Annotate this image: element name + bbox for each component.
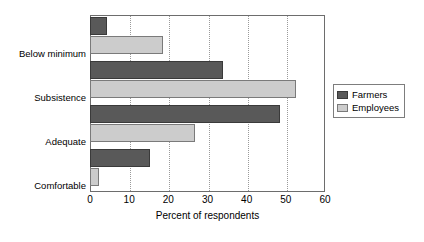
x-tick-20: 20 <box>163 194 174 206</box>
x-tick-10: 10 <box>124 194 135 206</box>
category-label-comfortable: Comfortable <box>0 180 86 191</box>
bar-farmers-comfortable <box>90 149 150 167</box>
x-tick-50: 50 <box>280 194 291 206</box>
legend-item-farmers: Farmers <box>337 88 399 101</box>
bar-farmers-adequate <box>90 105 280 123</box>
bar-employees-below-minimum <box>90 36 163 54</box>
legend-label-farmers: Farmers <box>352 89 387 100</box>
legend-label-employees: Employees <box>352 102 399 113</box>
legend-swatch-employees-icon <box>337 104 348 112</box>
bar-employees-adequate <box>90 124 195 142</box>
x-tick-30: 30 <box>202 194 213 206</box>
bar-farmers-below-minimum <box>90 17 107 35</box>
bar-employees-comfortable <box>90 168 99 186</box>
x-tick-60: 60 <box>319 194 330 206</box>
x-axis-title: Percent of respondents <box>90 210 325 222</box>
x-axis-tick-labels: 0 10 20 30 40 50 60 <box>90 194 325 208</box>
category-label-subsistence: Subsistence <box>0 92 86 103</box>
bar-chart: Below minimum Subsistence Adequate Comfo… <box>0 0 424 242</box>
bar-farmers-subsistence <box>90 61 223 79</box>
bar-group-adequate <box>90 105 325 149</box>
category-label-below-minimum: Below minimum <box>0 48 86 59</box>
legend-swatch-farmers-icon <box>337 91 348 99</box>
legend-item-employees: Employees <box>337 101 399 114</box>
x-tick-40: 40 <box>241 194 252 206</box>
x-tick-0: 0 <box>87 194 93 206</box>
chart-legend: Farmers Employees <box>333 84 405 118</box>
category-axis-labels: Below minimum Subsistence Adequate Comfo… <box>0 15 86 192</box>
bars-layer <box>90 15 325 192</box>
bar-group-comfortable <box>90 149 325 193</box>
bar-employees-subsistence <box>90 80 296 98</box>
bar-group-subsistence <box>90 61 325 105</box>
category-label-adequate: Adequate <box>0 136 86 147</box>
bar-group-below-minimum <box>90 17 325 61</box>
